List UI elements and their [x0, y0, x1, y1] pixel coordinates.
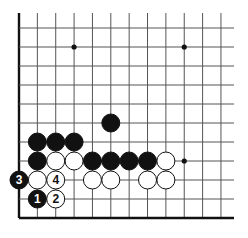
black-stone: [28, 133, 46, 151]
white-stone: [157, 171, 175, 189]
black-stone-icon: [28, 152, 46, 170]
white-stone-icon: [28, 171, 46, 189]
white-stone-icon: [102, 171, 120, 189]
white-stone: [157, 152, 175, 170]
black-stone: [120, 152, 138, 170]
white-stone-icon: [157, 171, 175, 189]
star-point: [71, 44, 76, 49]
black-stone: [102, 114, 120, 132]
white-stone: [65, 152, 83, 170]
white-stone: [28, 171, 46, 189]
black-stone-icon: [102, 152, 120, 170]
black-stone-icon: [65, 133, 83, 151]
white-stone: [83, 171, 101, 189]
black-stone-icon: [83, 152, 101, 170]
black-stone: [83, 152, 101, 170]
star-point: [182, 158, 187, 163]
black-stone-icon: [102, 114, 120, 132]
white-stone: [102, 171, 120, 189]
black-stone: 3: [10, 171, 28, 189]
white-stone: [47, 152, 65, 170]
black-stone: [65, 133, 83, 151]
black-stone-icon: [139, 152, 157, 170]
white-stone: [139, 171, 157, 189]
move-number-label: 2: [52, 192, 59, 206]
black-stone: 1: [28, 190, 46, 208]
white-stone: 2: [47, 190, 65, 208]
white-stone-icon: [83, 171, 101, 189]
black-stone: [28, 152, 46, 170]
star-point: [182, 44, 187, 49]
move-number-label: 3: [16, 173, 23, 187]
black-stone: [102, 152, 120, 170]
black-stone: [47, 133, 65, 151]
white-stone-icon: [47, 152, 65, 170]
move-number-label: 4: [52, 173, 59, 187]
white-stone-icon: [139, 171, 157, 189]
white-stone-icon: [157, 152, 175, 170]
move-number-label: 1: [34, 192, 41, 206]
black-stone-icon: [28, 133, 46, 151]
black-stone-icon: [47, 133, 65, 151]
white-stone-icon: [65, 152, 83, 170]
white-stone: 4: [47, 171, 65, 189]
black-stone-icon: [120, 152, 138, 170]
black-stone: [139, 152, 157, 170]
go-board: 3412: [0, 0, 248, 238]
